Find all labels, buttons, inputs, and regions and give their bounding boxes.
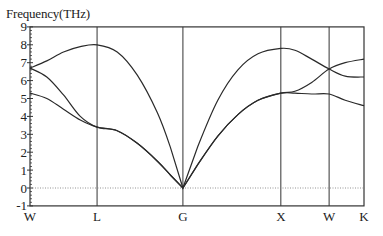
y-tick-label: 3 (21, 127, 28, 142)
y-tick-label: 6 (21, 73, 28, 88)
high-symmetry-lines (97, 27, 329, 206)
y-tick-label: 9 (21, 19, 28, 34)
y-tick-label: 2 (21, 145, 28, 160)
y-tick-label: 0 (21, 181, 28, 196)
dispersion-curves (30, 45, 364, 188)
x-tick-label: G (178, 209, 187, 224)
y-tick-label: 4 (21, 109, 28, 124)
dispersion-branch (30, 93, 364, 188)
y-tick-label: 8 (21, 37, 28, 52)
y-tick-label: 5 (21, 91, 28, 106)
x-tick-label: L (93, 209, 101, 224)
x-tick-label: X (276, 209, 286, 224)
dispersion-branch (30, 59, 364, 188)
x-tick-label: W (24, 209, 37, 224)
y-tick-label: 7 (21, 55, 28, 70)
x-tick-label: K (359, 209, 369, 224)
x-axis-labels: WLGXWK (24, 209, 369, 224)
y-tick-label: 1 (21, 163, 28, 178)
x-tick-label: W (323, 209, 336, 224)
phonon-dispersion-chart: -10123456789 WLGXWK (0, 0, 383, 236)
y-axis-ticks: -10123456789 (16, 19, 33, 213)
